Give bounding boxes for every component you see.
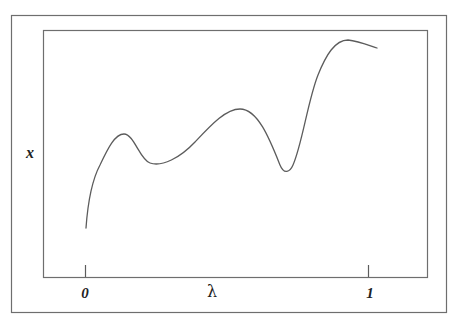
plot-area-frame [44,31,428,278]
figure: 0 1 λ x [0,0,457,323]
x-tick-label-1: 1 [366,285,374,301]
outer-frame [12,16,447,313]
y-axis-label: x [25,144,34,161]
x-tick-label-0: 0 [81,285,89,301]
x-axis-label: λ [207,282,217,301]
plot-svg: 0 1 λ x [0,0,457,323]
curve-x-of-lambda [86,40,377,228]
